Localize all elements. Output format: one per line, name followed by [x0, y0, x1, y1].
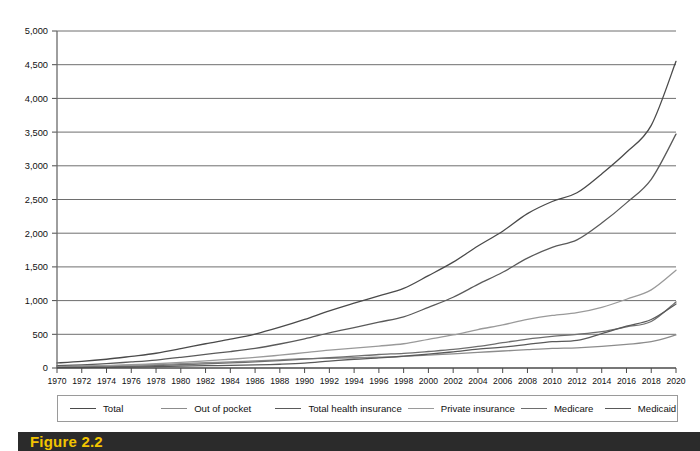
legend-swatch-icon — [161, 408, 187, 409]
svg-text:2000: 2000 — [419, 376, 438, 386]
svg-text:2016: 2016 — [617, 376, 636, 386]
svg-text:1982: 1982 — [196, 376, 215, 386]
figure-caption-bar: Figure 2.2 — [18, 432, 700, 451]
svg-text:1970: 1970 — [47, 376, 66, 386]
series-line-total-health-insurance — [57, 134, 676, 366]
line-chart: 05001,0001,5002,0002,5003,0003,5004,0004… — [0, 0, 700, 388]
series-line-private-insurance — [57, 270, 676, 366]
y-axis-tick-labels: 05001,0001,5002,0002,5003,0003,5004,0004… — [25, 26, 48, 373]
svg-text:1980: 1980 — [171, 376, 190, 386]
svg-text:1978: 1978 — [146, 376, 165, 386]
svg-text:4,000: 4,000 — [25, 94, 48, 104]
figure-container: 05001,0001,5002,0002,5003,0003,5004,0004… — [0, 0, 700, 451]
chart-svg: 05001,0001,5002,0002,5003,0003,5004,0004… — [0, 0, 700, 388]
page-divider — [0, 426, 700, 428]
svg-text:0: 0 — [43, 363, 48, 373]
svg-text:2014: 2014 — [592, 376, 611, 386]
legend-item-label: Private insurance — [441, 403, 515, 414]
legend-item-private-insurance[interactable]: Private insurance — [402, 396, 515, 421]
svg-text:2020: 2020 — [666, 376, 685, 386]
svg-text:1990: 1990 — [295, 376, 314, 386]
svg-text:1992: 1992 — [320, 376, 339, 386]
svg-text:3,000: 3,000 — [25, 161, 48, 171]
svg-text:4,500: 4,500 — [25, 60, 48, 70]
legend-swatch-icon — [408, 408, 434, 409]
legend-item-label: Medicaid — [638, 403, 676, 414]
legend-item-label: Total — [103, 403, 123, 414]
svg-text:2018: 2018 — [642, 376, 661, 386]
svg-text:1974: 1974 — [97, 376, 116, 386]
legend-item-total[interactable]: Total — [58, 396, 155, 421]
svg-text:2004: 2004 — [468, 376, 487, 386]
svg-text:1976: 1976 — [122, 376, 141, 386]
legend-item-label: Medicare — [554, 403, 593, 414]
svg-text:2010: 2010 — [543, 376, 562, 386]
chart-legend: TotalOut of pocketTotal health insurance… — [57, 395, 678, 422]
legend-item-medicare[interactable]: Medicare — [515, 396, 599, 421]
svg-text:1986: 1986 — [246, 376, 265, 386]
series-line-total — [57, 61, 676, 363]
series-lines — [57, 61, 676, 367]
series-line-medicaid — [57, 304, 676, 368]
svg-text:2,000: 2,000 — [25, 229, 48, 239]
svg-text:500: 500 — [32, 330, 48, 340]
svg-text:1996: 1996 — [369, 376, 388, 386]
svg-text:5,000: 5,000 — [25, 26, 48, 36]
svg-text:1972: 1972 — [72, 376, 91, 386]
svg-text:2012: 2012 — [567, 376, 586, 386]
svg-text:2,500: 2,500 — [25, 195, 48, 205]
legend-item-out-of-pocket[interactable]: Out of pocket — [155, 396, 269, 421]
gridlines — [52, 31, 676, 368]
legend-swatch-icon — [275, 408, 301, 409]
svg-text:1984: 1984 — [221, 376, 240, 386]
x-axis-tick-marks — [57, 368, 676, 373]
svg-text:1998: 1998 — [394, 376, 413, 386]
legend-item-label: Out of pocket — [194, 403, 251, 414]
legend-item-total-health-insurance[interactable]: Total health insurance — [269, 396, 401, 421]
svg-text:1994: 1994 — [345, 376, 364, 386]
legend-swatch-icon — [521, 408, 547, 409]
svg-text:3,500: 3,500 — [25, 128, 48, 138]
figure-caption-label: Figure 2.2 — [30, 433, 103, 450]
svg-text:2006: 2006 — [493, 376, 512, 386]
legend-swatch-icon — [70, 408, 96, 409]
svg-text:1,000: 1,000 — [25, 296, 48, 306]
svg-text:2008: 2008 — [518, 376, 537, 386]
svg-text:1,500: 1,500 — [25, 262, 48, 272]
legend-item-medicaid[interactable]: Medicaid — [599, 396, 677, 421]
legend-swatch-icon — [605, 408, 631, 409]
svg-text:1988: 1988 — [270, 376, 289, 386]
legend-item-label: Total health insurance — [308, 403, 401, 414]
x-axis-tick-labels: 1970197219741976197819801982198419861988… — [47, 376, 685, 386]
svg-text:2002: 2002 — [444, 376, 463, 386]
